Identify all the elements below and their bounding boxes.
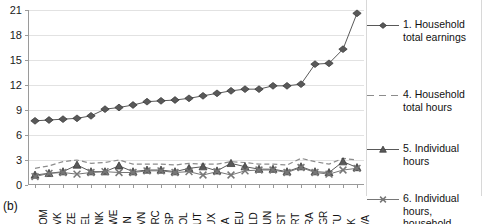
- y-tick-label: 18: [0, 30, 22, 41]
- x-tick-label: DEU: [235, 198, 245, 224]
- x-tick-label: GRC: [151, 198, 161, 224]
- x-tick-label: ESP: [165, 198, 175, 224]
- x-tick-label: HUN: [263, 198, 273, 224]
- legend-item: 4. Household total hours: [366, 88, 483, 113]
- x-tick-label: SVK: [53, 198, 63, 224]
- x-tick-label: POL: [179, 198, 189, 224]
- diamond-marker: [379, 23, 386, 29]
- x-tick-label: BGR: [319, 198, 329, 224]
- x-tick-mark: [301, 185, 302, 188]
- x-tick-label: LUX: [207, 198, 217, 224]
- y-tick-label: 0: [0, 180, 22, 191]
- x-tick-label: FRA: [305, 198, 315, 224]
- x-tick-mark: [245, 185, 246, 188]
- legend-label: 1. Household total earnings: [400, 18, 483, 43]
- x-tick-mark: [357, 185, 358, 188]
- panel-label: (b): [3, 199, 18, 213]
- x-tick-mark: [259, 185, 260, 188]
- x-tick-label: ROM: [39, 198, 49, 224]
- legend-marker-sample: [366, 143, 400, 156]
- legend-marker-sample: [366, 193, 400, 206]
- x-tick-mark: [63, 185, 64, 188]
- x-tick-mark: [161, 185, 162, 188]
- x-tick-mark: [175, 185, 176, 188]
- x-tick-mark: [35, 185, 36, 188]
- legend-label: 5. Individual hours: [400, 142, 483, 167]
- x-tick-label: DNK: [95, 198, 105, 224]
- x-tick-mark: [189, 185, 190, 188]
- x-tick-mark: [217, 185, 218, 188]
- x-tick-label: UK: [347, 198, 357, 224]
- x-tick-label: SWE: [109, 198, 119, 224]
- x-tick-mark: [147, 185, 148, 188]
- x-tick-label: ITA: [221, 198, 231, 224]
- x-tick-mark: [273, 185, 274, 188]
- x-tick-label: CZE: [67, 198, 77, 224]
- plot-border: [28, 10, 364, 185]
- x-tick-label: AUT: [193, 198, 203, 224]
- legend-marker-sample: [366, 89, 400, 102]
- x-tick-label: LTU: [333, 198, 343, 224]
- x-tick-mark: [329, 185, 330, 188]
- x-tick-label: EST: [277, 198, 287, 224]
- x-tick-mark: [203, 185, 204, 188]
- chart-figure: 036912151821 ROMSVKCZEBELDNKSWEFINSVNGRC…: [0, 0, 483, 224]
- x-tick-mark: [105, 185, 106, 188]
- x-tick-mark: [343, 185, 344, 188]
- x-tick-mark: [315, 185, 316, 188]
- x-tick-mark: [231, 185, 232, 188]
- legend-marker-sample: [366, 19, 400, 32]
- x-tick-mark: [91, 185, 92, 188]
- y-tick-label: 21: [0, 5, 22, 16]
- legend-item: 5. Individual hours: [366, 142, 483, 167]
- x-tick-label: SVN: [137, 198, 147, 224]
- chart-legend: 1. Household total earnings4. Household …: [366, 10, 483, 196]
- x-tick-mark: [49, 185, 50, 188]
- y-tick-mark: [25, 185, 28, 186]
- legend-item: 6. Individual hours, household ranked: [366, 192, 483, 224]
- x-tick-mark: [287, 185, 288, 188]
- legend-item: 1. Household total earnings: [366, 18, 483, 43]
- legend-label: 4. Household total hours: [400, 88, 483, 113]
- y-tick-label: 9: [0, 105, 22, 116]
- x-tick-mark: [77, 185, 78, 188]
- x-tick-mark: [119, 185, 120, 188]
- x-tick-label: NLD: [249, 198, 259, 224]
- x-tick-mark: [133, 185, 134, 188]
- y-tick-label: 3: [0, 155, 22, 166]
- y-tick-label: 6: [0, 130, 22, 141]
- x-tick-label: PRT: [291, 198, 301, 224]
- x-tick-label: BEL: [81, 198, 91, 224]
- y-tick-label: 15: [0, 55, 22, 66]
- legend-label: 6. Individual hours, household ranked: [400, 192, 483, 224]
- y-tick-label: 12: [0, 80, 22, 91]
- x-tick-label: FIN: [123, 198, 133, 224]
